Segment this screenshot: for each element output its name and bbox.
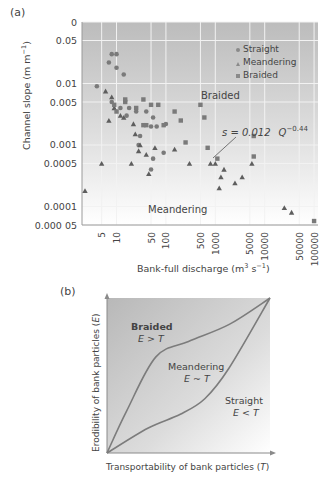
- data-point-straight: [109, 52, 114, 57]
- region-braided-label-b: Braided: [131, 321, 173, 332]
- data-point-straight: [149, 167, 154, 172]
- x-axis-arrow-icon: [270, 451, 276, 456]
- data-point-straight: [107, 60, 112, 65]
- x-tick-label: 10000: [260, 232, 270, 261]
- y-tick-label: 0.05: [56, 35, 77, 46]
- data-point-braided: [144, 123, 148, 127]
- x-tick-label: 50: [147, 232, 157, 244]
- data-point-braided: [141, 97, 145, 101]
- panel-a-label: (a): [10, 6, 25, 19]
- y-tick-label: 0.0005: [44, 158, 77, 169]
- panel-b-y-axis-title: Erodibility of bank particles (E): [91, 313, 101, 452]
- legend-braided-marker: [236, 74, 240, 78]
- data-point-braided: [161, 123, 165, 127]
- data-point-braided: [198, 103, 202, 107]
- data-point-straight: [144, 109, 149, 114]
- data-point-braided: [172, 109, 176, 113]
- data-point-braided: [215, 156, 219, 160]
- data-point-straight: [149, 124, 154, 129]
- data-point-braided: [183, 140, 187, 144]
- panel-a-y-axis-title: Channel slope (m m−1): [20, 41, 32, 150]
- figure: (a) 00.050.010.0050.0010.00050.00010.000…: [0, 0, 333, 479]
- region-straight-label-b: Straight: [225, 395, 263, 406]
- legend-braided-label: Braided: [243, 70, 278, 80]
- panel-b: (b) Braided E > T Meandering E ~ T Strai…: [60, 285, 276, 472]
- data-point-braided: [114, 109, 118, 113]
- y-tick-label: 0.0001: [44, 201, 77, 212]
- panel-b-x-axis-title: Transportability of bank particles (T): [105, 462, 269, 472]
- data-point-straight: [151, 115, 156, 120]
- panel-a-x-tick-labels: 51050100500100050001000050000100000: [97, 232, 319, 267]
- data-point-straight: [95, 84, 100, 89]
- region-braided-label: Braided: [201, 90, 240, 101]
- data-point-straight: [121, 72, 126, 77]
- data-point-straight: [138, 134, 143, 139]
- panel-b-label: (b): [60, 285, 76, 298]
- y-axis-arrow-icon: [105, 293, 110, 299]
- data-point-straight: [154, 124, 159, 129]
- data-point-braided: [312, 219, 316, 223]
- data-point-braided: [156, 103, 160, 107]
- data-point-braided: [202, 115, 206, 119]
- data-point-braided: [149, 103, 153, 107]
- panel-a-y-tick-labels: 00.050.010.0050.0010.00050.00010.000 05: [35, 17, 77, 231]
- y-tick-label: 0.01: [56, 78, 77, 89]
- region-meandering-relation: E ~ T: [184, 373, 211, 384]
- data-point-straight: [127, 106, 132, 111]
- x-tick-label: 100000: [310, 232, 320, 267]
- x-tick-label: 500: [196, 232, 206, 249]
- y-tick-label: 0.005: [50, 97, 77, 108]
- data-point-straight: [114, 65, 119, 70]
- data-point-straight: [151, 156, 156, 161]
- legend-straight-marker: [236, 48, 240, 52]
- data-point-braided: [123, 97, 127, 101]
- data-point-braided: [134, 106, 138, 110]
- data-point-straight: [118, 106, 123, 111]
- region-braided-relation: E > T: [138, 333, 165, 344]
- x-tick-label: 5000: [245, 232, 255, 255]
- data-point-straight: [161, 150, 166, 155]
- region-straight-relation: E < T: [233, 407, 260, 418]
- x-tick-label: 100: [161, 232, 171, 249]
- region-meandering-label: Meandering: [148, 204, 207, 215]
- y-tick-label: 0.001: [50, 139, 77, 150]
- y-tick-label: 0.000 05: [35, 220, 77, 231]
- data-point-braided: [112, 103, 116, 107]
- legend-meandering-label: Meandering: [243, 57, 296, 67]
- y-tick-label: 0: [71, 17, 77, 28]
- data-point-braided: [205, 146, 209, 150]
- data-point-braided: [179, 118, 183, 122]
- x-tick-label: 50000: [295, 232, 305, 261]
- region-meandering-label-b: Meandering: [168, 361, 224, 372]
- panel-a: (a) 00.050.010.0050.0010.00050.00010.000…: [10, 6, 320, 274]
- panel-a-x-axis-title: Bank-full discharge (m3 s−1): [137, 262, 270, 274]
- x-tick-label: 1000: [211, 232, 221, 255]
- data-point-straight: [114, 52, 119, 57]
- data-point-braided: [252, 154, 256, 158]
- x-tick-label: 10: [112, 232, 122, 244]
- x-tick-label: 5: [97, 232, 107, 238]
- legend-straight-label: Straight: [243, 44, 279, 54]
